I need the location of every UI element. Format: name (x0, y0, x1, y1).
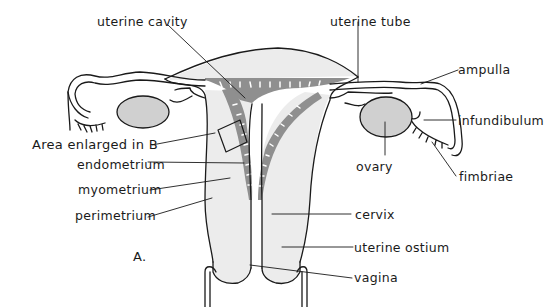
label-perimetrium: perimetrium (75, 209, 156, 223)
label-area-enlarged: Area enlarged in B (32, 138, 158, 152)
label-fimbriae: fimbriae (459, 170, 513, 184)
left-fimbriae (68, 92, 105, 132)
right-ovary (360, 97, 412, 137)
uterus-right-wall (262, 92, 330, 283)
label-infundibulum: infundibulum (458, 114, 544, 128)
label-cervix: cervix (355, 208, 395, 222)
label-myometrium: myometrium (78, 183, 162, 197)
uterus-anatomy-diagram (0, 0, 557, 307)
label-vagina: vagina (354, 271, 398, 285)
label-uterine-ostium: uterine ostium (354, 241, 450, 255)
label-uterine-cavity: uterine cavity (97, 15, 188, 29)
panel-label: A. (133, 250, 146, 264)
label-ampulla: ampulla (458, 63, 510, 77)
right-fimbriae (410, 118, 448, 148)
left-ovary (117, 96, 169, 128)
label-endometrium: endometrium (77, 158, 165, 172)
label-uterine-tube: uterine tube (330, 15, 411, 29)
label-ovary: ovary (356, 160, 393, 174)
